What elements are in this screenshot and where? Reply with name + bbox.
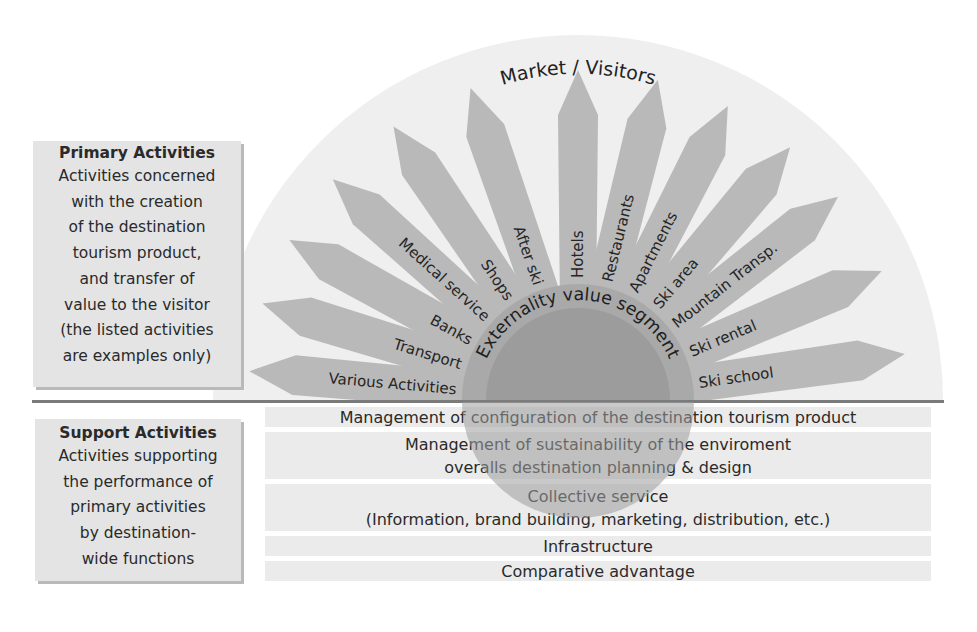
description-line: by destination- — [35, 521, 241, 547]
description-line: of the destination — [33, 215, 241, 241]
primary-activities-box: Primary Activities Activities concernedw… — [33, 141, 241, 387]
support-activities-description: Activities supportingthe performance ofp… — [35, 444, 241, 573]
support-bar-label: Infrastructure — [265, 535, 931, 558]
description-line: and transfer of — [33, 267, 241, 293]
support-bar-label: Management of configuration of the desti… — [265, 406, 931, 429]
support-bar-label: Management of sustainability of the envi… — [265, 433, 931, 456]
support-activities-title: Support Activities — [35, 423, 241, 444]
support-bar-label: Comparative advantage — [265, 560, 931, 583]
support-bar-label: Collective service — [265, 485, 931, 508]
description-line: tourism product, — [33, 241, 241, 267]
primary-activities-title: Primary Activities — [33, 143, 241, 164]
value-chain-diagram: Various ActivitiesTransportBanksMedical … — [0, 0, 977, 632]
description-line: Activities supporting — [35, 444, 241, 470]
description-line: value to the visitor — [33, 293, 241, 319]
description-line: (the listed activities — [33, 318, 241, 344]
description-line: with the creation — [33, 190, 241, 216]
primary-support-divider — [32, 400, 944, 403]
description-line: wide functions — [35, 547, 241, 573]
support-bar-label: overalls destination planning & design — [265, 456, 931, 479]
ray-label: Hotels — [569, 230, 587, 278]
description-line: Activities concerned — [33, 164, 241, 190]
support-activities-box: Support Activities Activities supporting… — [35, 419, 241, 581]
support-bar-label: (Information, brand building, marketing,… — [265, 508, 931, 531]
primary-activities-description: Activities concernedwith the creationof … — [33, 164, 241, 370]
description-line: the performance of — [35, 470, 241, 496]
description-line: are examples only) — [33, 344, 241, 370]
description-line: primary activities — [35, 495, 241, 521]
